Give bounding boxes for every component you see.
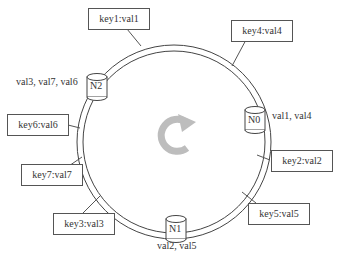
rotate-clockwise-icon	[161, 114, 196, 151]
node-n2-values: val3, val7, val6	[16, 76, 78, 87]
key-box-key6: key6:val6	[7, 114, 69, 136]
key-box-key4: key4:val4	[231, 20, 293, 42]
hash-ring	[77, 45, 271, 239]
node-n1-values: val2, val5	[157, 240, 196, 251]
node-n0-values: val1, val4	[272, 110, 311, 121]
key-box-key7: key7:val7	[21, 164, 83, 186]
key-box-key3: key3:val3	[53, 213, 115, 235]
key-box-key1: key1:val1	[88, 8, 150, 30]
node-n0-label: N0	[248, 114, 260, 125]
key-box-key5: key5:val5	[248, 203, 310, 225]
key-box-key2: key2:val2	[271, 150, 333, 172]
node-n1-label: N1	[169, 223, 181, 234]
node-n2-label: N2	[90, 80, 102, 91]
